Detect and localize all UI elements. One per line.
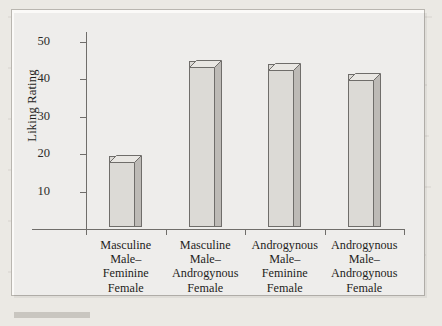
y-axis-tick [80,79,86,80]
x-axis-tick [325,229,326,235]
bar-front-face [348,74,374,227]
bar-side-face [294,64,301,227]
y-axis-tick-label: 10 [10,185,50,198]
bar-front-face [109,156,135,227]
caption-rule [14,312,90,318]
bar-top-face [189,54,222,61]
category-label-line: Male– [312,252,416,266]
y-axis-tick [80,154,86,155]
bar-side-face [374,74,381,227]
bar-side-face [135,156,142,227]
y-axis-tick-label: 20 [10,147,50,160]
y-axis-tick [80,192,86,193]
bar-chart-plot-area: Liking Rating 1020304050 MasculineMale–F… [12,10,424,295]
y-axis-tick-label: 40 [10,72,50,85]
y-axis-tick [80,42,86,43]
bar-top-face [348,67,381,74]
y-axis-title: Liking Rating [25,51,40,161]
y-axis-line [86,32,87,230]
category-label-line: Androgynous [312,238,416,252]
category-label-line: Female [312,281,416,295]
x-axis-tick [404,229,405,235]
x-axis-tick [245,229,246,235]
figure-panel: Liking Rating 1020304050 MasculineMale–F… [11,9,425,296]
bar-top-face [109,149,142,156]
x-axis-category-label: AndrogynousMale–AndrogynousFemale [312,238,416,295]
bar-top-face [268,57,301,64]
y-axis-tick-label: 30 [10,110,50,123]
x-axis-line [32,229,404,230]
bar [268,57,301,227]
bar-side-face [215,61,222,227]
y-axis-tick-label: 50 [10,35,50,48]
bar [189,54,222,227]
bar-front-face [268,64,294,227]
x-axis-tick [86,229,87,235]
category-label-line: Androgynous [312,266,416,280]
x-axis-tick [166,229,167,235]
bar [348,67,381,227]
bar [109,149,142,227]
y-axis-tick [80,117,86,118]
bar-front-face [189,61,215,227]
